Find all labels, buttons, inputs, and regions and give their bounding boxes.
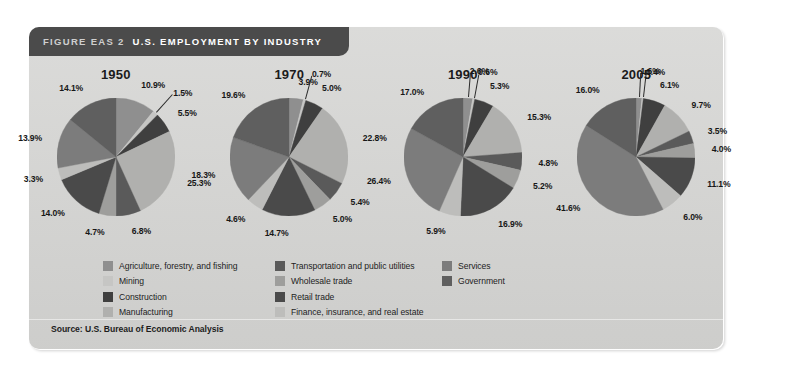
pie-slice-label: 17.0% (400, 87, 424, 97)
pie-slice-label: 4.6% (226, 214, 245, 224)
pie-slice-label: 0.7% (312, 69, 331, 79)
pie-slice-label: 41.6% (556, 203, 580, 213)
pie-slice-label: 19.6% (221, 90, 245, 100)
pie-chart-1950: 195010.9%1.5%5.5%25.3%6.8%4.7%14.0%3.3%1… (29, 59, 203, 264)
legend-item: Retail trade (275, 289, 424, 304)
pie-slice-label: 5.5% (178, 108, 197, 118)
pie-slice-label: 5.3% (490, 81, 509, 91)
legend-item: Manufacturing (103, 305, 238, 320)
legend-swatch-icon (442, 261, 452, 271)
pie-slice-label: 4.7% (85, 227, 104, 237)
pie-slice-label: 4.0% (712, 144, 731, 154)
pie-slice-label: 16.0% (576, 85, 600, 95)
pie-slice-label: 0.6% (478, 67, 497, 77)
pie-chart-title: 1950 (29, 67, 203, 82)
legend-swatch-icon (442, 276, 452, 286)
pie-slice-label: 14.7% (265, 228, 289, 238)
legend-label: Transportation and public utilities (291, 261, 415, 271)
pie-graphic: 2.6%0.6%5.3%15.3%4.8%5.2%16.9%5.9%26.4%1… (404, 98, 522, 216)
source-note: Source: U.S. Bureau of Economic Analysis (51, 324, 223, 334)
pie-slice-label: 9.7% (691, 100, 710, 110)
legend-label: Government (458, 276, 505, 286)
legend-swatch-icon (103, 307, 113, 317)
pie-chart-2005: 20051.6%0.4%6.1%9.7%3.5%4.0%11.1%6.0%41.… (550, 59, 724, 264)
pie-slice-label: 0.4% (646, 67, 665, 77)
legend-item: Transportation and public utilities (275, 259, 424, 274)
legend-item: Construction (103, 289, 238, 304)
pie-slice-label: 6.1% (660, 80, 679, 90)
pie-graphic: 3.9%0.7%5.0%22.8%5.4%5.0%14.7%4.6%18.3%1… (230, 98, 348, 216)
legend-item: Agriculture, forestry, and fishing (103, 259, 238, 274)
legend-swatch-icon (275, 276, 285, 286)
legend-label: Finance, insurance, and real estate (291, 307, 424, 317)
legend-item: Finance, insurance, and real estate (275, 305, 424, 320)
pie-slice-label: 6.8% (132, 226, 151, 236)
legend-label: Mining (119, 276, 144, 286)
pie-graphic: 10.9%1.5%5.5%25.3%6.8%4.7%14.0%3.3%13.9%… (57, 98, 175, 216)
pie-slice-label: 1.5% (173, 88, 192, 98)
legend-label: Wholesale trade (291, 276, 352, 286)
pie-chart-1970: 19703.9%0.7%5.0%22.8%5.4%5.0%14.7%4.6%18… (203, 59, 377, 264)
legend-column-3: ServicesGovernment (442, 259, 505, 289)
legend-item: Services (442, 259, 505, 274)
pie-slice-label: 14.1% (59, 83, 83, 93)
pie-slice-label: 5.9% (426, 226, 445, 236)
pie-slice-label: 16.9% (498, 219, 522, 229)
legend-label: Retail trade (291, 292, 334, 302)
figure-number: FIGURE EAS 2 (43, 36, 125, 47)
pie-slice-label: 3.3% (24, 174, 43, 184)
pie-slice-label: 5.4% (350, 197, 369, 207)
legend: Agriculture, forestry, and fishingMining… (29, 259, 723, 321)
pie-charts-row: 195010.9%1.5%5.5%25.3%6.8%4.7%14.0%3.3%1… (29, 59, 723, 264)
legend-swatch-icon (275, 292, 285, 302)
legend-column-1: Agriculture, forestry, and fishingMining… (103, 259, 238, 320)
legend-swatch-icon (275, 261, 285, 271)
figure-panel: FIGURE EAS 2 U.S. EMPLOYMENT BY INDUSTRY… (29, 27, 723, 349)
legend-label: Construction (119, 292, 167, 302)
figure-header-text: FIGURE EAS 2 U.S. EMPLOYMENT BY INDUSTRY (43, 36, 322, 47)
legend-label: Manufacturing (119, 307, 173, 317)
pie-slice-label: 18.3% (191, 170, 215, 180)
legend-swatch-icon (103, 292, 113, 302)
legend-item: Wholesale trade (275, 274, 424, 289)
legend-swatch-icon (103, 276, 113, 286)
pie-slice-label: 15.3% (527, 112, 551, 122)
pie-slice-label: 26.4% (367, 176, 391, 186)
pie-slice-label: 11.1% (707, 179, 730, 189)
figure-header-bar: FIGURE EAS 2 U.S. EMPLOYMENT BY INDUSTRY (29, 27, 349, 56)
legend-swatch-icon (275, 307, 285, 317)
pie-slice-label: 3.5% (708, 126, 727, 136)
legend-item: Mining (103, 274, 238, 289)
figure-title: U.S. EMPLOYMENT BY INDUSTRY (132, 36, 322, 47)
legend-column-2: Transportation and public utilitiesWhole… (275, 259, 424, 320)
pie-chart-title: 2005 (550, 67, 724, 82)
pie-slice-label: 5.0% (322, 83, 341, 93)
pie-chart-title: 1990 (376, 67, 550, 82)
pie-chart-title: 1970 (203, 67, 377, 82)
pie-slice-label: 10.9% (141, 80, 165, 90)
pie-slice-label: 6.0% (683, 212, 702, 222)
pie-chart-1990: 19902.6%0.6%5.3%15.3%4.8%5.2%16.9%5.9%26… (376, 59, 550, 264)
legend-swatch-icon (103, 261, 113, 271)
pie-slice-label: 14.0% (41, 208, 65, 218)
legend-label: Agriculture, forestry, and fishing (119, 261, 238, 271)
legend-item: Government (442, 274, 505, 289)
legend-label: Services (458, 261, 491, 271)
pie-graphic: 1.6%0.4%6.1%9.7%3.5%4.0%11.1%6.0%41.6%16… (577, 98, 695, 216)
pie-slice-label: 13.9% (18, 133, 42, 143)
pie-slice-label: 5.0% (333, 214, 352, 224)
